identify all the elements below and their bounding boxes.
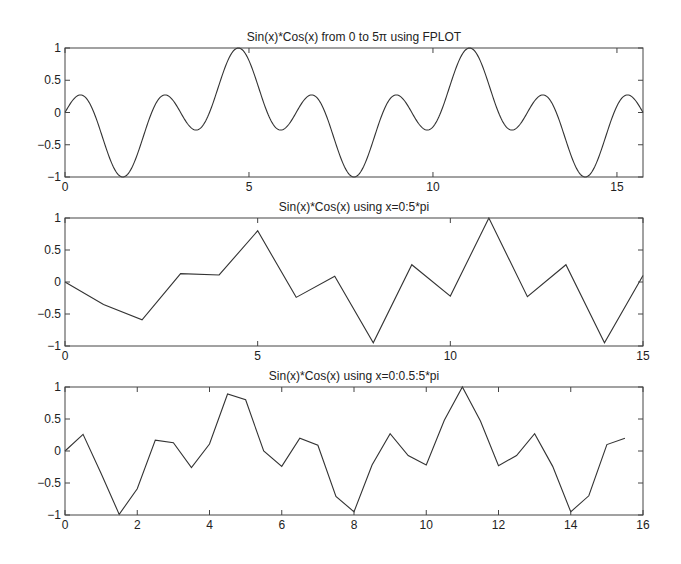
x-tick-label: 10 <box>420 518 434 532</box>
y-tick-label: 0.5 <box>44 412 61 426</box>
x-tick-label: 15 <box>610 180 624 194</box>
x-tick-label: 10 <box>426 180 440 194</box>
x-tick-label: 0 <box>62 349 69 363</box>
x-tick-label: 10 <box>444 349 458 363</box>
subplot-title: Sin(x)*Cos(x) using x=0:0.5:5*pi <box>269 369 439 383</box>
x-tick-label: 12 <box>492 518 506 532</box>
y-tick-label: −1 <box>47 508 61 522</box>
subplot-title: Sin(x)*Cos(x) from 0 to 5π using FPLOT <box>247 30 462 44</box>
subplot-title: Sin(x)*Cos(x) using x=0:5*pi <box>279 200 429 214</box>
x-tick-label: 8 <box>351 518 358 532</box>
figure-canvas: Sin(x)*Cos(x) from 0 to 5π using FPLOT 0… <box>0 0 681 564</box>
x-tick-label: 14 <box>564 518 578 532</box>
y-tick-label: 0 <box>54 444 61 458</box>
data-line <box>65 218 643 343</box>
subplot-integer-step: Sin(x)*Cos(x) using x=0:5*pi 051015−1−0.… <box>37 200 650 363</box>
x-tick-label: 4 <box>206 518 213 532</box>
x-tick-label: 2 <box>134 518 141 532</box>
x-tick-label: 0 <box>62 180 69 194</box>
axes-frame <box>65 218 643 346</box>
y-tick-label: −0.5 <box>37 307 61 321</box>
y-tick-label: 1 <box>54 41 61 55</box>
x-tick-label: 5 <box>254 349 261 363</box>
x-tick-label: 0 <box>62 518 69 532</box>
x-tick-label: 15 <box>636 349 650 363</box>
y-tick-label: 1 <box>54 211 61 225</box>
y-tick-label: 0.5 <box>44 243 61 257</box>
y-tick-label: 0.5 <box>44 73 61 87</box>
y-tick-label: −1 <box>47 170 61 184</box>
data-line <box>65 48 643 177</box>
y-tick-label: −1 <box>47 339 61 353</box>
subplot-fplot: Sin(x)*Cos(x) from 0 to 5π using FPLOT 0… <box>37 30 643 194</box>
data-line <box>65 387 625 514</box>
x-tick-label: 16 <box>636 518 650 532</box>
y-tick-label: −0.5 <box>37 138 61 152</box>
y-tick-label: −0.5 <box>37 476 61 490</box>
figure: Sin(x)*Cos(x) from 0 to 5π using FPLOT 0… <box>0 0 681 564</box>
x-tick-label: 6 <box>278 518 285 532</box>
y-tick-label: 0 <box>54 106 61 120</box>
subplot-half-step: Sin(x)*Cos(x) using x=0:0.5:5*pi 0246810… <box>37 369 650 532</box>
y-tick-label: 0 <box>54 275 61 289</box>
x-tick-label: 5 <box>246 180 253 194</box>
y-tick-label: 1 <box>54 380 61 394</box>
